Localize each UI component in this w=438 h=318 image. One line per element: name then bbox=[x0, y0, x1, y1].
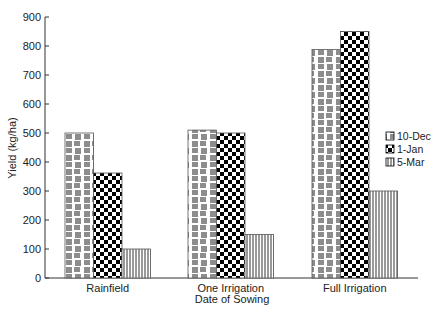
chart-canvas: 0100200300400500600700800900 RainfieldOn… bbox=[0, 0, 438, 318]
legend-swatch-icon bbox=[386, 145, 394, 153]
bar-5-mar bbox=[245, 235, 274, 279]
x-axis-label: Date of Sowing bbox=[195, 293, 270, 305]
y-tick-label: 900 bbox=[23, 11, 41, 23]
legend-label: 10-Dec bbox=[397, 130, 431, 142]
legend-label: 1-Jan bbox=[397, 143, 423, 155]
legend-swatch-icon bbox=[386, 132, 394, 140]
y-tick-label: 700 bbox=[23, 69, 41, 81]
y-axis-label: Yield (kg/ha) bbox=[6, 117, 18, 178]
bar-1-jan bbox=[217, 133, 246, 278]
bar-10-dec bbox=[65, 133, 94, 278]
bar-chart: 0100200300400500600700800900 RainfieldOn… bbox=[0, 0, 438, 318]
y-tick-label: 0 bbox=[35, 272, 41, 284]
legend-label: 5-Mar bbox=[397, 156, 425, 168]
y-tick-label: 300 bbox=[23, 185, 41, 197]
y-tick-label: 400 bbox=[23, 156, 41, 168]
bar-5-mar bbox=[369, 191, 398, 278]
legend-swatch-icon bbox=[386, 158, 394, 166]
legend: 10-Dec1-Jan5-Mar bbox=[386, 130, 431, 168]
x-tick-label: Rainfield bbox=[86, 282, 129, 294]
bars bbox=[65, 32, 398, 279]
x-tick-label: Full Irrigation bbox=[323, 282, 387, 294]
y-tick-label: 500 bbox=[23, 127, 41, 139]
y-tick-label: 200 bbox=[23, 214, 41, 226]
y-tick-label: 100 bbox=[23, 243, 41, 255]
y-tick-label: 600 bbox=[23, 98, 41, 110]
bar-10-dec bbox=[312, 49, 341, 278]
bar-1-jan bbox=[94, 173, 123, 278]
bar-5-mar bbox=[122, 249, 151, 278]
bar-1-jan bbox=[341, 32, 370, 279]
y-tick-label: 800 bbox=[23, 40, 41, 52]
bar-10-dec bbox=[188, 130, 217, 278]
